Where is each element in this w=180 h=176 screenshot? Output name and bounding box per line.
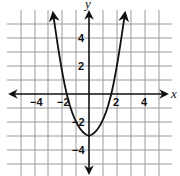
y-tick-label: −4: [72, 144, 85, 156]
y-axis-label: y: [83, 0, 91, 11]
parabola-graph: x y −4 −2 2 4 4 2 −2 −4: [0, 0, 180, 176]
y-tick-label: 2: [78, 60, 84, 72]
x-axis-label: x: [170, 86, 177, 101]
x-tick-label: 4: [141, 96, 148, 108]
y-tick-label: 4: [78, 32, 85, 44]
x-tick-label: −4: [30, 96, 43, 108]
x-tick-label: 2: [113, 96, 119, 108]
